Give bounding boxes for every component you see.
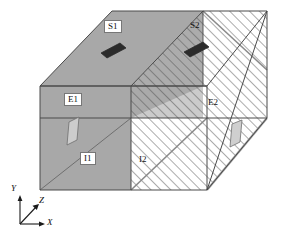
axis-label-y: Y [11,183,16,193]
label-front-left-inlet: I1 [80,152,96,165]
figure-canvas: S1 S2 E1 E2 I1 I2 Y Z X [0,0,287,241]
label-right-face-outlet: E2 [208,98,218,107]
axis-label-z: Z [39,195,44,205]
label-top-left-source: S1 [104,20,122,33]
x-axis-arrowhead [39,222,45,227]
label-left-face-outlet: E1 [64,93,82,106]
front-face-left-solid [40,86,131,190]
interior-band-hatched-lower [131,86,203,118]
label-front-right-inlet: I2 [139,155,147,164]
z-axis-line [20,207,36,224]
label-top-right-source: S2 [190,21,200,30]
y-axis-arrowhead [18,195,23,201]
axis-label-x: X [47,217,53,227]
